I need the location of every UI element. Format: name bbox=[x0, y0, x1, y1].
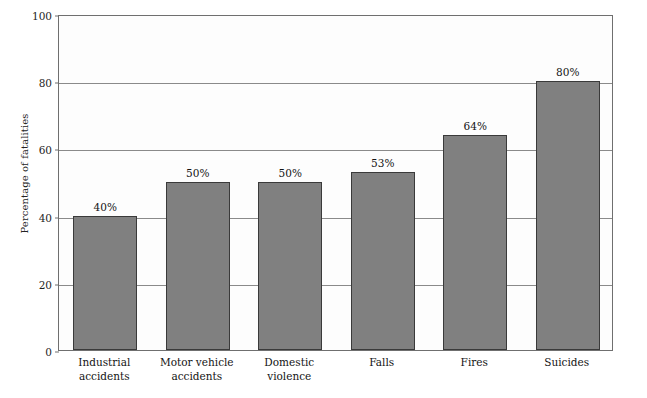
bar[interactable] bbox=[351, 172, 415, 350]
x-axis-category-label: Fires bbox=[428, 356, 521, 370]
y-axis-tick-label: 0 bbox=[45, 346, 52, 358]
bar-slot: 53% bbox=[337, 16, 430, 350]
bar-value-label: 40% bbox=[94, 201, 117, 213]
bar-slot: 80% bbox=[522, 16, 615, 350]
x-axis-category-line: accidents bbox=[151, 370, 244, 384]
y-axis-tick-label: 80 bbox=[39, 77, 52, 89]
x-axis-category-label: Suicides bbox=[521, 356, 614, 370]
bar-value-label: 53% bbox=[371, 157, 394, 169]
plot-area: 02040608010040%50%50%53%64%80% bbox=[58, 15, 613, 351]
x-axis-category-label: Falls bbox=[336, 356, 429, 370]
x-axis-category-line: violence bbox=[243, 370, 336, 384]
bar[interactable] bbox=[258, 182, 322, 350]
bar[interactable] bbox=[443, 135, 507, 350]
y-axis-tick-label: 100 bbox=[32, 10, 52, 22]
bar-value-label: 50% bbox=[186, 167, 209, 179]
y-axis-tick-label: 40 bbox=[39, 212, 52, 224]
bar-slot: 50% bbox=[152, 16, 245, 350]
bar-slot: 50% bbox=[244, 16, 337, 350]
y-axis-tick-mark bbox=[55, 352, 59, 353]
bar-value-label: 50% bbox=[279, 167, 302, 179]
y-axis-tick-label: 20 bbox=[39, 279, 52, 291]
x-axis-category-label: Industrialaccidents bbox=[58, 356, 151, 383]
bar-value-label: 80% bbox=[556, 66, 579, 78]
x-axis-category-line: Falls bbox=[336, 356, 429, 370]
x-axis-category-line: Suicides bbox=[521, 356, 614, 370]
x-axis-category-line: Industrial bbox=[58, 356, 151, 370]
x-axis-category-line: Motor vehicle bbox=[151, 356, 244, 370]
x-axis-category-line: accidents bbox=[58, 370, 151, 384]
bar[interactable] bbox=[73, 216, 137, 350]
x-axis-category-line: Fires bbox=[428, 356, 521, 370]
bar-value-label: 64% bbox=[464, 120, 487, 132]
x-axis-category-label: Domesticviolence bbox=[243, 356, 336, 383]
bar-slot: 40% bbox=[59, 16, 152, 350]
bar[interactable] bbox=[166, 182, 230, 350]
bar-chart-figure: Percentage of fatalities 02040608010040%… bbox=[0, 0, 647, 398]
y-axis-tick-label: 60 bbox=[39, 144, 52, 156]
x-axis-category-label: Motor vehicleaccidents bbox=[151, 356, 244, 383]
bar[interactable] bbox=[536, 81, 600, 350]
x-axis-category-line: Domestic bbox=[243, 356, 336, 370]
bar-slot: 64% bbox=[429, 16, 522, 350]
y-axis-title: Percentage of fatalities bbox=[19, 84, 30, 264]
